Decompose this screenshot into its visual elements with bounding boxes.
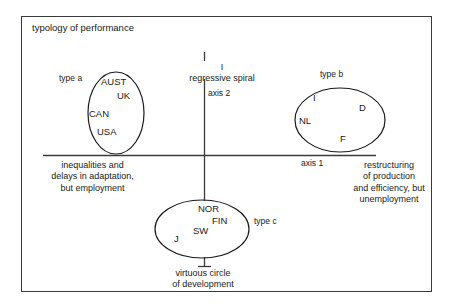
data-point-label-uk: UK	[117, 90, 130, 101]
data-point-label-usa: USA	[97, 126, 117, 137]
figure-title: typology of performance	[32, 22, 134, 34]
data-point-label-nor: NOR	[198, 203, 219, 214]
axis-2-negative-caption: virtuous circle of development	[142, 268, 264, 291]
data-point-label-can: CAN	[89, 108, 109, 119]
data-point-label-nl: NL	[299, 115, 311, 126]
axis-2-positive-caption: I regressive spiral	[162, 62, 282, 85]
axis-1-label: axis 1	[301, 158, 323, 169]
cluster-label-type-b: type b	[320, 69, 343, 80]
axis-1-positive-caption: restructuring of production and efficien…	[346, 160, 432, 205]
cluster-label-type-c: type c	[254, 216, 277, 227]
axis-2-label: axis 2	[208, 88, 230, 99]
typology-figure: typology of performance I regressive spi…	[0, 0, 451, 305]
data-point-label-sw: SW	[193, 225, 208, 236]
figure-frame	[21, 16, 432, 292]
data-point-label-j: J	[174, 233, 179, 244]
cluster-label-type-a: type a	[59, 73, 82, 84]
data-point-label-d: D	[359, 102, 366, 113]
data-point-label-fin: FIN	[212, 215, 227, 226]
data-point-label-aust: AUST	[101, 76, 126, 87]
data-point-label-f: F	[340, 133, 346, 144]
axis-1-negative-caption: inequalities and delays in adaptation, b…	[27, 160, 158, 194]
data-point-label-i: I	[313, 92, 316, 103]
